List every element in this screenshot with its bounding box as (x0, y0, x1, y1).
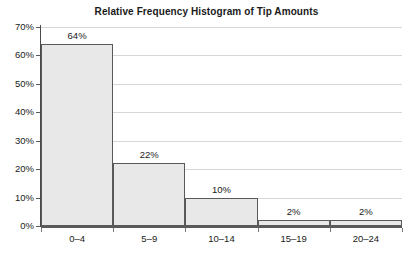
y-axis-tick (36, 141, 40, 142)
x-axis-tick (258, 228, 259, 232)
y-axis-tick-label: 10% (4, 193, 34, 203)
histogram-bar (330, 220, 402, 226)
y-axis-tick-label: 20% (4, 164, 34, 174)
bar-value-label: 10% (185, 185, 257, 195)
x-axis-tick-label: 15–19 (258, 234, 330, 244)
bar-value-label: 22% (113, 150, 185, 160)
x-axis-tick-label: 10–14 (185, 234, 257, 244)
x-axis-tick (41, 228, 42, 232)
y-axis-tick-label: 30% (4, 136, 34, 146)
y-axis-tick (36, 169, 40, 170)
y-axis-tick-label: 60% (4, 50, 34, 60)
y-axis-labels: 0%10%20%30%40%50%60%70% (0, 0, 34, 260)
x-axis-tick-label: 0–4 (41, 234, 113, 244)
y-axis-tick (36, 27, 40, 28)
y-axis-tick (36, 84, 40, 85)
x-axis-tick (330, 228, 331, 232)
y-axis-tick-label: 50% (4, 79, 34, 89)
histogram-bar (185, 198, 257, 226)
bars-group (41, 27, 402, 226)
bar-value-label: 2% (330, 207, 402, 217)
histogram-bar (258, 220, 330, 226)
y-axis-tick (36, 55, 40, 56)
x-axis-tick (113, 228, 114, 232)
bar-value-label: 2% (258, 207, 330, 217)
plot-area (41, 27, 402, 226)
y-axis-tick-label: 40% (4, 107, 34, 117)
histogram-bar (113, 163, 185, 226)
x-axis-tick (402, 228, 403, 232)
x-axis-tick-label: 20–24 (330, 234, 402, 244)
x-axis-tick-label: 5–9 (113, 234, 185, 244)
x-axis-tick (185, 228, 186, 232)
y-axis-tick-label: 70% (4, 22, 34, 32)
y-axis-tick (36, 198, 40, 199)
chart-title: Relative Frequency Histogram of Tip Amou… (0, 6, 413, 17)
histogram-bar (41, 44, 113, 226)
histogram-chart: Relative Frequency Histogram of Tip Amou… (0, 0, 413, 260)
x-axis-line (41, 226, 402, 228)
bar-value-label: 64% (41, 31, 113, 41)
y-axis-tick (36, 226, 40, 227)
y-axis-tick (36, 112, 40, 113)
y-axis-tick-label: 0% (4, 221, 34, 231)
